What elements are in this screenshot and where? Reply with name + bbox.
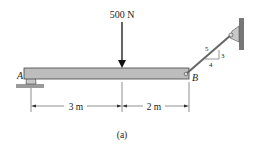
load-arrow bbox=[118, 22, 126, 68]
slope-rise: 3 bbox=[221, 52, 225, 60]
slope-run: 4 bbox=[209, 61, 213, 69]
slope-hyp: 5 bbox=[205, 45, 209, 53]
dimension-lines bbox=[31, 82, 189, 112]
point-b-label: B bbox=[192, 72, 198, 83]
beam bbox=[24, 68, 189, 79]
point-a-label: A bbox=[16, 70, 24, 81]
dimension-3m: 3 m bbox=[69, 102, 84, 112]
beam-diagram: 500 N A B 5 3 4 3 m 2 m (a) bbox=[0, 0, 263, 152]
wall-support bbox=[229, 18, 244, 50]
pin-b bbox=[184, 72, 188, 76]
load-label: 500 N bbox=[110, 9, 135, 20]
dimension-2m: 2 m bbox=[147, 102, 162, 112]
figure-caption: (a) bbox=[117, 130, 128, 141]
